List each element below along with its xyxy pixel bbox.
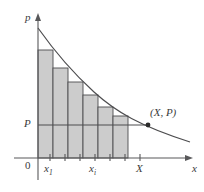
bar-rect	[113, 116, 128, 158]
y-axis-arrowhead	[35, 13, 41, 21]
bar-rect	[68, 82, 83, 158]
bar-rect	[53, 68, 68, 158]
bar-rect	[83, 95, 98, 158]
tick-label-xi-subscript: i	[94, 168, 96, 177]
tick-label-upper-limit: X	[136, 163, 143, 174]
figure-container: p x 0 P x1 xi X (X, P)	[0, 0, 204, 192]
tick-label-x1: x1	[44, 163, 53, 177]
point-marker-dot	[146, 123, 151, 128]
x-axis-label: x	[192, 163, 197, 174]
tick-label-xi: xi	[89, 163, 96, 177]
x-axis-arrowhead	[185, 155, 193, 161]
riemann-rectangles	[38, 50, 128, 158]
bar-rect	[38, 50, 53, 158]
price-level-label: P	[24, 118, 31, 129]
y-axis-label: p	[25, 12, 31, 23]
tick-label-x1-subscript: 1	[49, 168, 53, 177]
bar-rect	[98, 107, 113, 158]
origin-label: 0	[25, 160, 31, 171]
point-annotation-label: (X, P)	[150, 107, 176, 118]
